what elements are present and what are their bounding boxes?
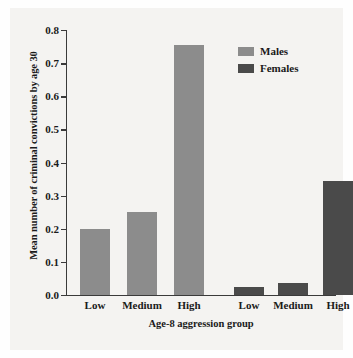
y-axis-tick-mark [61,96,66,97]
y-axis-tick-mark [61,30,66,31]
x-tick-label-males-high: High [177,299,200,311]
bar-females-low [234,287,264,295]
bar-chart-figure: Mean number of criminal convictions by a… [0,0,353,358]
bar-males-medium [127,212,157,295]
legend-item-males: Males [238,44,298,58]
y-axis-tick-label: 0.5 [45,123,59,135]
x-axis-line [66,295,336,296]
y-axis-tick-label: 0.2 [45,223,59,235]
y-axis-line [66,30,67,295]
x-tick-label-females-low: Low [239,299,260,311]
bar-males-high [174,45,204,295]
y-axis-tick-label: 0.0 [45,289,59,301]
y-axis-tick-label: 0.3 [45,190,59,202]
legend-item-females: Females [238,61,298,75]
bar-females-high [323,181,353,295]
y-axis-tick-mark [61,295,66,296]
bar-males-low [80,229,110,295]
y-axis-tick-mark [61,262,66,263]
bar-females-medium [278,283,308,295]
legend-swatch-males [238,47,254,56]
x-tick-label-males-low: Low [85,299,106,311]
y-axis-tick-label: 0.7 [45,57,59,69]
y-axis-tick-mark [61,63,66,64]
legend-label-males: Males [260,45,288,57]
y-axis-tick-mark [61,196,66,197]
y-axis-tick-label: 0.8 [45,24,59,36]
x-tick-label-females-medium: Medium [273,299,313,311]
legend-label-females: Females [260,62,298,74]
y-axis-tick-label: 0.1 [45,256,59,268]
y-axis-tick-mark [61,229,66,230]
x-axis-title: Age-8 aggression group [66,318,336,329]
y-axis-title: Mean number of criminal convictions by a… [28,31,39,281]
y-axis-tick-mark [61,129,66,130]
x-tick-label-males-medium: Medium [122,299,162,311]
x-tick-label-females-high: High [326,299,349,311]
chart-legend: MalesFemales [238,44,298,78]
y-axis-tick-label: 0.6 [45,90,59,102]
y-axis-tick-mark [61,163,66,164]
legend-swatch-females [238,64,254,73]
y-axis-tick-label: 0.4 [45,157,59,169]
